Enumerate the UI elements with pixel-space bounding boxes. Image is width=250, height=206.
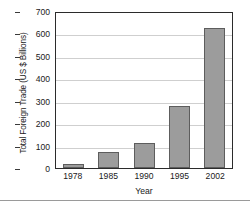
y-tick-label: 700 — [20, 7, 50, 17]
plot-inner — [56, 13, 232, 168]
y-tick-mark — [15, 102, 20, 103]
bar-1995 — [169, 106, 190, 168]
x-axis-title: Year — [55, 186, 233, 196]
bar-1978 — [63, 164, 84, 168]
bar-slot — [197, 13, 232, 168]
y-tick-label: 200 — [20, 119, 50, 129]
y-tick-mark — [15, 79, 20, 80]
bar-chart-figure: Total Foreign Trade (US $ Billions) 0100… — [0, 0, 250, 206]
y-tick-label: 500 — [20, 52, 50, 62]
bar-series — [56, 13, 232, 168]
x-tick-label: 1978 — [55, 171, 91, 185]
y-tick-label: 100 — [20, 142, 50, 152]
x-tick-label: 1990 — [126, 171, 162, 185]
y-tick-mark — [15, 169, 20, 170]
x-tick-label: 1985 — [91, 171, 127, 185]
y-tick-mark — [15, 57, 20, 58]
y-tick-mark — [15, 147, 20, 148]
plot-area — [55, 12, 233, 169]
bar-slot — [126, 13, 161, 168]
x-tick-label: 2002 — [197, 171, 233, 185]
bottom-divider — [0, 200, 250, 201]
y-tick-label: 300 — [20, 97, 50, 107]
bar-slot — [162, 13, 197, 168]
bar-2002 — [204, 28, 225, 168]
y-axis-tick-labels: 0100200300400500600700 — [20, 12, 50, 169]
y-tick-label: 400 — [20, 74, 50, 84]
y-tick-mark — [15, 124, 20, 125]
y-tick-label: 600 — [20, 29, 50, 39]
bar-slot — [56, 13, 91, 168]
bar-1990 — [134, 143, 155, 168]
x-tick-label: 1995 — [162, 171, 198, 185]
bar-slot — [91, 13, 126, 168]
y-tick-label: 0 — [20, 164, 50, 174]
y-tick-mark — [15, 34, 20, 35]
x-axis-tick-labels: 19781985199019952002 — [55, 171, 233, 185]
y-tick-mark — [15, 12, 20, 13]
bar-1985 — [98, 152, 119, 168]
